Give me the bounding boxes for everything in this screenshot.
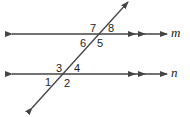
angle-label-1: 1 [45, 77, 51, 88]
parallel-lines-diagram [0, 0, 190, 117]
angle-label-2: 2 [64, 78, 70, 89]
line-n [12, 71, 167, 77]
angle-label-4: 4 [74, 63, 80, 74]
angle-label-3: 3 [56, 63, 62, 74]
angle-label-6: 6 [80, 38, 86, 49]
line-label-m: m [171, 26, 180, 39]
angle-label-7: 7 [90, 23, 96, 34]
transversal-line [32, 2, 128, 108]
angle-label-5: 5 [97, 38, 103, 49]
angle-label-8: 8 [108, 23, 114, 34]
line-label-n: n [171, 66, 178, 79]
